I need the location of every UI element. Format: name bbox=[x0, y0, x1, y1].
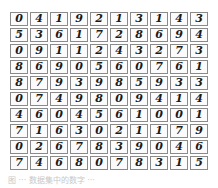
digit-cell: 3 bbox=[170, 76, 188, 90]
digit-cell: 1 bbox=[130, 108, 148, 122]
digit-cell: 5 bbox=[10, 28, 28, 42]
digit-cell: 7 bbox=[110, 156, 128, 170]
digit-cell: 6 bbox=[50, 140, 68, 154]
figure-caption: 图 ··· 数据集中的数字 ··· bbox=[8, 176, 212, 186]
digit-cell: 9 bbox=[30, 44, 48, 58]
digit-cell: 5 bbox=[90, 108, 108, 122]
digit-cell: 3 bbox=[130, 44, 148, 58]
digit-cell: 8 bbox=[90, 92, 108, 106]
digit-cell: 2 bbox=[90, 12, 108, 26]
digit-cell: 1 bbox=[30, 124, 48, 138]
digit-cell: 0 bbox=[150, 140, 168, 154]
digit-cell: 1 bbox=[150, 124, 168, 138]
digit-cell: 4 bbox=[10, 108, 28, 122]
digit-cell: 9 bbox=[70, 12, 88, 26]
digit-cell: 9 bbox=[50, 60, 68, 74]
digit-cell: 1 bbox=[70, 28, 88, 42]
digit-cell: 1 bbox=[130, 124, 148, 138]
digit-cell: 1 bbox=[170, 92, 188, 106]
digit-cell: 3 bbox=[70, 124, 88, 138]
digit-cell: 0 bbox=[10, 140, 28, 154]
digit-cell: 3 bbox=[150, 156, 168, 170]
digit-cell: 4 bbox=[190, 28, 208, 42]
digit-cell: 5 bbox=[130, 76, 148, 90]
digit-cell: 6 bbox=[150, 28, 168, 42]
digit-cell: 9 bbox=[130, 92, 148, 106]
digit-cell: 0 bbox=[10, 44, 28, 58]
digit-cell: 8 bbox=[10, 76, 28, 90]
digit-cell: 8 bbox=[10, 60, 28, 74]
digit-cell: 3 bbox=[190, 12, 208, 26]
digit-cell: 0 bbox=[50, 108, 68, 122]
digit-cell: 8 bbox=[130, 28, 148, 42]
digit-cell: 2 bbox=[110, 124, 128, 138]
digit-cell: 4 bbox=[170, 140, 188, 154]
digit-cell: 7 bbox=[30, 92, 48, 106]
digit-cell: 4 bbox=[30, 156, 48, 170]
digit-cell: 2 bbox=[90, 44, 108, 58]
digit-cell: 0 bbox=[70, 60, 88, 74]
digit-cell: 4 bbox=[170, 12, 188, 26]
digit-cell: 7 bbox=[150, 60, 168, 74]
digit-cell: 6 bbox=[30, 108, 48, 122]
digit-cell: 0 bbox=[90, 156, 108, 170]
digit-cell: 6 bbox=[190, 140, 208, 154]
digit-cell: 2 bbox=[30, 140, 48, 154]
digit-cell: 1 bbox=[150, 12, 168, 26]
digit-cell: 4 bbox=[110, 44, 128, 58]
digit-cell: 7 bbox=[90, 28, 108, 42]
digit-cell: 3 bbox=[110, 140, 128, 154]
digit-cell: 9 bbox=[190, 124, 208, 138]
digit-cell: 2 bbox=[150, 44, 168, 58]
digit-cell: 7 bbox=[170, 124, 188, 138]
digit-cell: 1 bbox=[70, 44, 88, 58]
digit-cell: 9 bbox=[150, 76, 168, 90]
digit-cell: 9 bbox=[50, 76, 68, 90]
digit-cell: 4 bbox=[150, 92, 168, 106]
digit-cell: 3 bbox=[70, 76, 88, 90]
digit-cell: 1 bbox=[50, 44, 68, 58]
digit-cell: 6 bbox=[50, 124, 68, 138]
digit-cell: 4 bbox=[30, 12, 48, 26]
digit-cell: 9 bbox=[170, 28, 188, 42]
digit-cell: 0 bbox=[170, 108, 188, 122]
digit-cell: 6 bbox=[170, 60, 188, 74]
digit-cell: 1 bbox=[190, 60, 208, 74]
digit-cell: 0 bbox=[110, 92, 128, 106]
digit-cell: 9 bbox=[90, 76, 108, 90]
digit-cell: 8 bbox=[90, 140, 108, 154]
digit-cell: 6 bbox=[50, 28, 68, 42]
digit-cell: 3 bbox=[130, 12, 148, 26]
digit-cell: 8 bbox=[110, 76, 128, 90]
digit-cell: 1 bbox=[170, 156, 188, 170]
digit-cell: 4 bbox=[70, 108, 88, 122]
digit-cell: 0 bbox=[10, 92, 28, 106]
digit-cell: 2 bbox=[110, 28, 128, 42]
digit-cell: 9 bbox=[130, 140, 148, 154]
digit-cell: 9 bbox=[70, 92, 88, 106]
digit-cell: 3 bbox=[30, 28, 48, 42]
digit-cell: 5 bbox=[190, 156, 208, 170]
digit-cell: 4 bbox=[190, 92, 208, 106]
digit-cell: 7 bbox=[70, 140, 88, 154]
digit-cell: 6 bbox=[30, 60, 48, 74]
digit-cell: 8 bbox=[130, 156, 148, 170]
digit-cell: 0 bbox=[150, 108, 168, 122]
digit-cell: 0 bbox=[130, 60, 148, 74]
digit-cell: 5 bbox=[90, 60, 108, 74]
digit-cell: 8 bbox=[70, 156, 88, 170]
digit-cell: 7 bbox=[10, 124, 28, 138]
digit-cell: 0 bbox=[90, 124, 108, 138]
digit-cell: 0 bbox=[10, 12, 28, 26]
digit-cell: 6 bbox=[110, 108, 128, 122]
digit-cell: 3 bbox=[190, 76, 208, 90]
digit-cell: 7 bbox=[170, 44, 188, 58]
digit-cell: 1 bbox=[190, 108, 208, 122]
digit-cell: 6 bbox=[110, 60, 128, 74]
digit-cell: 6 bbox=[50, 156, 68, 170]
digit-cell: 4 bbox=[50, 92, 68, 106]
digit-cell: 3 bbox=[190, 44, 208, 58]
digit-grid: 0419213143536172869409112432738690560761… bbox=[10, 12, 208, 170]
digit-cell: 1 bbox=[50, 12, 68, 26]
digit-cell: 7 bbox=[30, 76, 48, 90]
